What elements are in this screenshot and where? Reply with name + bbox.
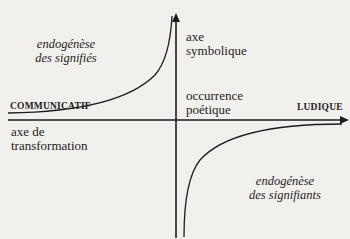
label-ludique: LUDIQUE	[297, 102, 343, 112]
label-endogenese-signifiants: endogénèse des signifiants	[244, 175, 326, 203]
hyperbola-diagram	[0, 0, 350, 239]
label-axe-de-transformation: axe de transformation	[11, 125, 88, 154]
label-line: axe de	[11, 125, 88, 139]
arrow-right-icon	[340, 116, 349, 124]
label-endogenese-signifies: endogénèse des signifiés	[30, 38, 102, 66]
label-line: symbolique	[186, 44, 247, 58]
label-line: des signifiants	[244, 189, 326, 203]
label-occurrence-poetique: occurrence poétique	[186, 89, 243, 118]
label-line: transformation	[11, 139, 88, 153]
label-communicatif: COMMUNICATIF	[10, 101, 91, 111]
label-line: axe	[186, 30, 247, 44]
label-line: occurrence	[186, 89, 243, 103]
label-axe-symbolique: axe symbolique	[186, 30, 247, 59]
label-line: poétique	[186, 103, 243, 117]
arrow-up-icon	[172, 13, 180, 22]
label-line: endogénèse	[30, 38, 102, 52]
label-line: des signifiés	[30, 52, 102, 66]
label-line: endogénèse	[244, 175, 326, 189]
